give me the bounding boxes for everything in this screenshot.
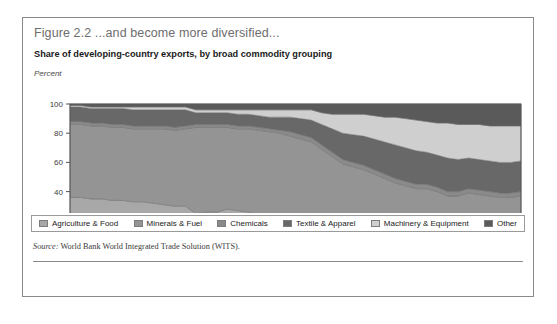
source-text: World Bank World Integrated Trade Soluti… [59, 242, 240, 251]
y-axis-tick-label: 40 [54, 188, 63, 197]
legend-item: Minerals & Fuel [134, 219, 203, 228]
figure-subtitle: Share of developing-country exports, by … [34, 49, 332, 59]
y-axis-unit-label: Percent [34, 69, 62, 78]
legend-swatch-icon [371, 220, 380, 227]
figure-title: Figure 2.2 ...and become more diversifie… [34, 26, 280, 40]
figure-container: Figure 2.2 ...and become more diversifie… [22, 17, 534, 297]
legend-label: Machinery & Equipment [384, 219, 469, 228]
stacked-area-chart: 0204060801001962196719721977198219871992… [23, 78, 535, 213]
legend-item: Machinery & Equipment [371, 219, 469, 228]
legend-item: Other [484, 219, 517, 228]
legend-item: Chemicals [217, 219, 267, 228]
legend-label: Other [497, 219, 517, 228]
legend-swatch-icon [283, 220, 292, 227]
y-axis-tick-label: 60 [54, 158, 63, 167]
legend-item: Textile & Apparel [283, 219, 356, 228]
legend-swatch-icon [39, 220, 48, 227]
legend-label: Minerals & Fuel [147, 219, 203, 228]
legend-swatch-icon [217, 220, 226, 227]
chart-legend: Agriculture & FoodMinerals & FuelChemica… [31, 215, 525, 232]
y-axis-tick-label: 80 [54, 129, 63, 138]
footer-divider [33, 261, 523, 262]
y-axis-tick-label: 100 [50, 100, 64, 109]
legend-swatch-icon [134, 220, 143, 227]
legend-label: Chemicals [230, 219, 267, 228]
legend-swatch-icon [484, 220, 493, 227]
legend-label: Agriculture & Food [52, 219, 118, 228]
legend-label: Textile & Apparel [296, 219, 356, 228]
source-note: Source: World Bank World Integrated Trad… [33, 242, 240, 251]
legend-item: Agriculture & Food [39, 219, 118, 228]
source-label: Source: [33, 242, 59, 251]
